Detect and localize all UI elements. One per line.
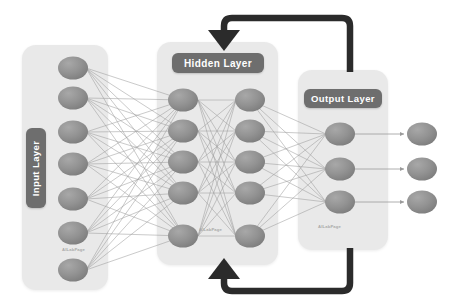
output-node[interactable]: [325, 191, 355, 214]
output-node[interactable]: [325, 123, 355, 146]
input-node[interactable]: [58, 259, 88, 282]
output-layer-label: Output Layer: [311, 93, 375, 104]
hidden-node[interactable]: [235, 89, 265, 112]
hidden-node[interactable]: [235, 151, 265, 174]
hidden-node[interactable]: [235, 182, 265, 205]
hidden-node[interactable]: [168, 151, 198, 174]
output-layer-nodes: [325, 123, 355, 214]
hidden-layer-label: Hidden Layer: [184, 58, 252, 69]
input-node[interactable]: [58, 121, 88, 144]
connections-hidden1-to-hidden2: [198, 100, 236, 236]
bottom-feedback-arrow: [208, 248, 350, 291]
hidden-node[interactable]: [168, 120, 198, 143]
result-node[interactable]: [407, 158, 437, 181]
output-node[interactable]: [325, 158, 355, 181]
hidden-node[interactable]: [235, 120, 265, 143]
neural-network-diagram: Input Layer Hidden Layer Output Layer AI…: [0, 0, 459, 304]
connections-output-to-result: [352, 134, 404, 202]
input-node[interactable]: [58, 153, 88, 176]
watermark: AILabPage: [62, 247, 85, 252]
output-layer-badge: Output Layer: [304, 89, 382, 108]
hidden-node[interactable]: [168, 225, 198, 248]
input-layer-badge: Input Layer: [26, 128, 46, 208]
hidden-layer-column-2-nodes: [235, 89, 265, 248]
result-node[interactable]: [407, 123, 437, 146]
watermark: AILabPage: [199, 227, 222, 232]
hidden-node[interactable]: [168, 89, 198, 112]
input-node[interactable]: [58, 87, 88, 110]
hidden-node[interactable]: [168, 182, 198, 205]
input-layer-label: Input Layer: [31, 140, 42, 196]
hidden-layer-badge: Hidden Layer: [172, 53, 264, 73]
input-node[interactable]: [58, 222, 88, 245]
watermark: AILabPage: [318, 224, 341, 229]
input-node[interactable]: [58, 188, 88, 211]
network-graphics: [0, 0, 459, 304]
input-node[interactable]: [58, 57, 88, 80]
result-node[interactable]: [407, 191, 437, 214]
hidden-node[interactable]: [235, 225, 265, 248]
result-nodes: [407, 123, 437, 214]
